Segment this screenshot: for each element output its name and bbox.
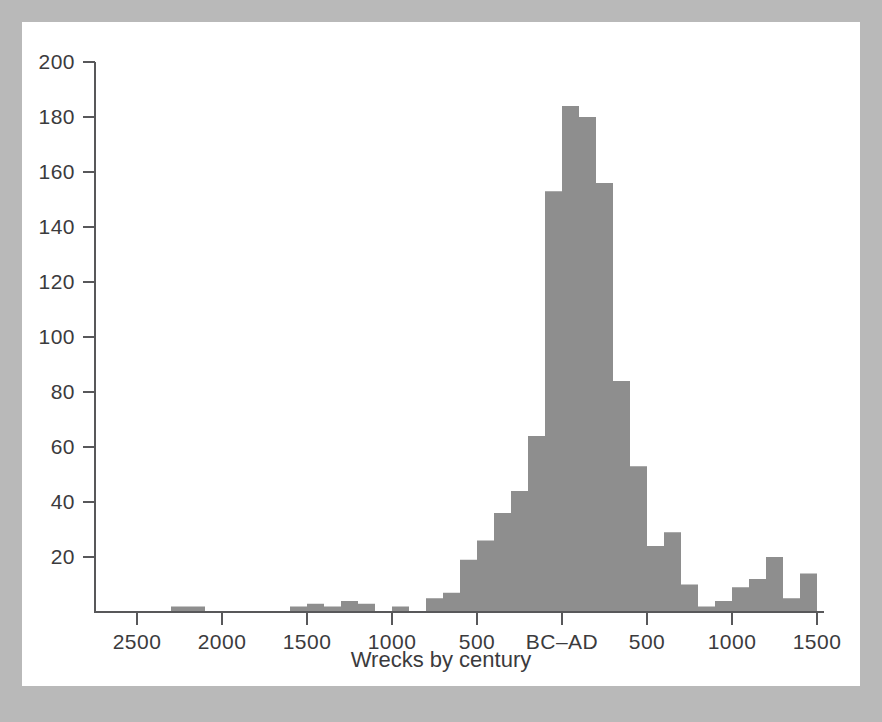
x-tick-label: 500 — [629, 630, 666, 653]
histogram-bar — [443, 593, 460, 612]
histogram-bar — [664, 532, 681, 612]
histogram-bar — [494, 513, 511, 612]
histogram-bar — [358, 604, 375, 612]
y-tick-label: 180 — [38, 105, 75, 128]
histogram-bar — [307, 604, 324, 612]
axis-lines — [95, 62, 824, 612]
y-axis-ticks: 20406080100120140160180200 — [38, 50, 95, 568]
histogram-bar — [392, 607, 409, 613]
histogram-bar — [426, 598, 443, 612]
histogram-bar — [324, 607, 341, 613]
histogram-bar — [715, 601, 732, 612]
histogram-bar — [171, 607, 188, 613]
histogram-bar — [511, 491, 528, 612]
y-tick-label: 140 — [38, 215, 75, 238]
histogram-bar — [528, 436, 545, 612]
histogram-bar — [596, 183, 613, 612]
histogram-svg: 20406080100120140160180200 2500200015001… — [22, 22, 860, 686]
histogram-bar — [749, 579, 766, 612]
x-tick-label: BC–AD — [526, 630, 599, 653]
histogram-bar — [630, 466, 647, 612]
histogram-bar — [681, 585, 698, 613]
y-tick-label: 200 — [38, 50, 75, 73]
histogram-bar — [579, 117, 596, 612]
y-tick-label: 160 — [38, 160, 75, 183]
x-tick-label: 1500 — [793, 630, 842, 653]
histogram-bar — [460, 560, 477, 612]
figure-card: 20406080100120140160180200 2500200015001… — [22, 22, 860, 686]
x-tick-label: 2500 — [113, 630, 162, 653]
x-tick-label: 2000 — [198, 630, 247, 653]
histogram-bar — [188, 607, 205, 613]
y-tick-label: 40 — [51, 490, 75, 513]
histogram-bar — [783, 598, 800, 612]
histogram-bar — [800, 574, 817, 613]
histogram-bar — [477, 541, 494, 613]
x-tick-label: 1500 — [283, 630, 332, 653]
y-tick-label: 80 — [51, 380, 75, 403]
histogram-plot: 20406080100120140160180200 2500200015001… — [22, 22, 860, 686]
bars-group — [171, 106, 817, 612]
x-axis-title: Wrecks by century — [351, 647, 532, 672]
y-tick-label: 100 — [38, 325, 75, 348]
histogram-bar — [766, 557, 783, 612]
histogram-bar — [732, 587, 749, 612]
histogram-bar — [698, 607, 715, 613]
histogram-bar — [613, 381, 630, 612]
y-tick-label: 120 — [38, 270, 75, 293]
x-tick-label: 1000 — [708, 630, 757, 653]
y-tick-label: 20 — [51, 545, 75, 568]
histogram-bar — [545, 191, 562, 612]
histogram-bar — [562, 106, 579, 612]
histogram-bar — [647, 546, 664, 612]
histogram-bar — [290, 607, 307, 613]
histogram-bar — [341, 601, 358, 612]
y-tick-label: 60 — [51, 435, 75, 458]
